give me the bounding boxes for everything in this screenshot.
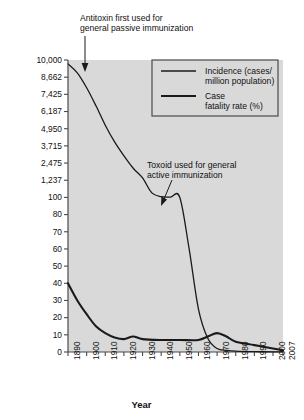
x-axis-tick-label: 2000	[277, 341, 287, 360]
x-axis-tick-label: 1990	[258, 341, 268, 360]
x-axis-tick-label: 1980	[240, 341, 250, 360]
x-axis-tick-label: 2007	[287, 341, 297, 360]
x-axis-tick-label: 1960	[202, 341, 212, 360]
annotation-text-antitoxin: Antitoxin first used for general passive…	[80, 13, 193, 34]
x-axis-title: Year	[0, 399, 283, 410]
legend-item-label-case-fatality: Case fatality rate (%)	[205, 91, 263, 111]
annotation-text-toxoid: Toxoid used for general active immunizat…	[147, 160, 236, 181]
x-axis-tick-labels: 1890190019101920193019401950196019701980…	[0, 0, 304, 420]
x-axis-tick-label: 1900	[91, 341, 101, 360]
chart-figure: 10,0008,6627,4256,1874,9503,7152,4751,23…	[0, 0, 304, 420]
x-axis-tick-label: 1930	[147, 341, 157, 360]
x-axis-tick-label: 1970	[221, 341, 231, 360]
legend-item-label-incidence: Incidence (cases/ million population)	[205, 66, 274, 86]
x-axis-tick-label: 1910	[109, 341, 119, 360]
x-axis-tick-label: 1940	[165, 341, 175, 360]
x-axis-tick-label: 1890	[72, 341, 82, 360]
x-axis-tick-label: 1920	[128, 341, 138, 360]
x-axis-tick-label: 1950	[184, 341, 194, 360]
